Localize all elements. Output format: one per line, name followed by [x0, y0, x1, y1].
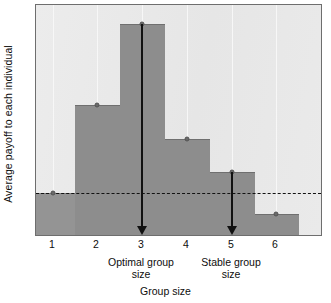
optimal-group-size-arrow-head	[137, 226, 147, 235]
x-tick-label-1: 1	[37, 238, 67, 250]
x-tick-label-3: 3	[126, 238, 156, 250]
stable-group-size-arrow-shaft	[231, 172, 233, 227]
chart-figure: Average payoff to each individual 1 2 3 …	[0, 0, 331, 303]
bar-group-4	[165, 139, 210, 235]
plot-area	[35, 4, 322, 236]
bar-group-6	[255, 214, 299, 235]
optimal-group-size-arrow-shaft	[141, 24, 143, 227]
y-axis-label: Average payoff to each individual	[0, 8, 16, 240]
x-tick-label-6: 6	[260, 238, 290, 250]
data-point-2	[95, 103, 100, 108]
x-axis-label: Group size	[0, 285, 331, 297]
bar-group-2	[75, 105, 120, 235]
x-tick-label-2: 2	[81, 238, 111, 250]
annotation-stable-line1: Stable group	[176, 256, 286, 268]
stable-group-size-arrow-head	[227, 226, 237, 235]
annotation-stable-group-size: Stable group size	[176, 256, 286, 280]
x-tick-label-5: 5	[216, 238, 246, 250]
data-point-6	[274, 212, 279, 217]
x-tick-label-4: 4	[171, 238, 201, 250]
threshold-dashed-line	[36, 193, 321, 194]
bar-group-1	[35, 193, 75, 235]
data-point-1	[51, 191, 56, 196]
data-point-4	[185, 137, 190, 142]
gridline-6	[276, 5, 277, 235]
annotation-stable-line2: size	[176, 268, 286, 280]
